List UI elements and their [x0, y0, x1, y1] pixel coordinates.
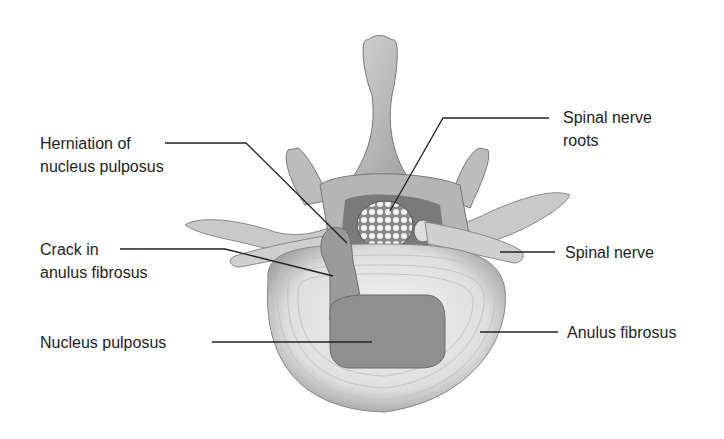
- label-anulus: Anulus fibrosus: [567, 321, 676, 344]
- label-crack: Crack in anulus fibrosus: [40, 238, 148, 284]
- label-herniation: Herniation of nucleus pulposus: [40, 132, 164, 178]
- label-nucleus: Nucleus pulposus: [40, 331, 166, 354]
- spine-illustration: [0, 0, 724, 439]
- spinous-process: [340, 36, 420, 196]
- spinal-nerve-roots: [357, 201, 413, 249]
- label-roots: Spinal nerve roots: [563, 106, 652, 152]
- label-spinal-nerve: Spinal nerve: [565, 241, 654, 264]
